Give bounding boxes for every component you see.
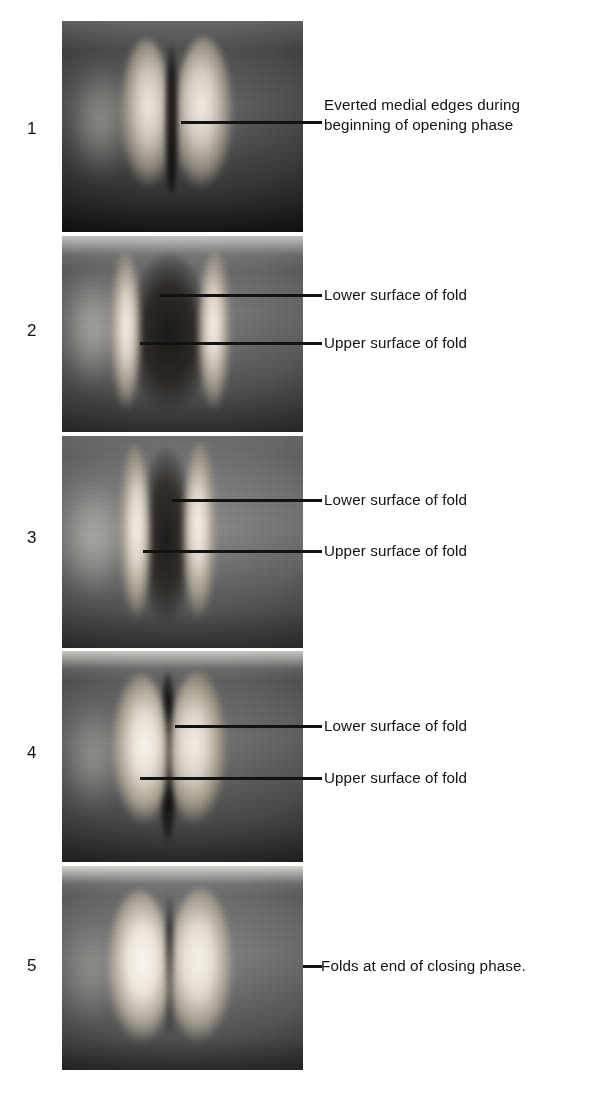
laryngeal-phases-figure: 1 Everted medial edges during beginning … [0,0,606,1095]
panel-image-4 [62,651,303,862]
leader-line-3-a [172,499,322,502]
panel-image-1 [62,21,303,232]
panel-number-1: 1 [27,120,36,137]
left-periphery-glow-5 [62,916,118,1028]
panel-number-5: 5 [27,957,36,974]
leader-line-4-b [140,777,322,780]
callout-label-5-a: Folds at end of closing phase. [321,956,586,976]
left-periphery-glow-3 [62,476,124,600]
glottal-slit-1 [166,43,177,193]
panel-number-2: 2 [27,322,36,339]
panel-image-3 [62,436,303,648]
left-periphery-glow-4 [64,699,122,815]
callout-label-3-b: Upper surface of fold [324,541,574,561]
callout-label-4-a: Lower surface of fold [324,716,574,736]
leader-line-1-a [181,121,322,124]
leader-line-2-a [160,294,322,297]
callout-label-2-a: Lower surface of fold [324,285,574,305]
right-vocal-fold-4 [170,671,226,833]
callout-label-1-a: Everted medial edges during beginning of… [324,95,574,135]
left-periphery-glow-2 [64,270,122,390]
callout-label-4-b: Upper surface of fold [324,768,574,788]
right-vocal-fold-5 [170,888,232,1048]
closed-glottis-line-5 [166,894,173,1034]
callout-label-2-b: Upper surface of fold [324,333,574,353]
right-vocal-fold-3 [184,442,218,630]
right-vocal-fold-2 [199,248,231,420]
panel-image-2 [62,236,303,432]
panel-number-3: 3 [27,529,36,546]
leader-line-5-a [303,965,322,968]
panel-image-5 [62,866,303,1070]
glottal-opening-2 [130,254,208,414]
leader-line-4-a [175,725,322,728]
leader-line-3-b [143,550,322,553]
leader-line-2-b [140,342,322,345]
callout-label-3-a: Lower surface of fold [324,490,574,510]
left-periphery-glow-1 [70,61,130,181]
panel-number-4: 4 [27,744,36,761]
